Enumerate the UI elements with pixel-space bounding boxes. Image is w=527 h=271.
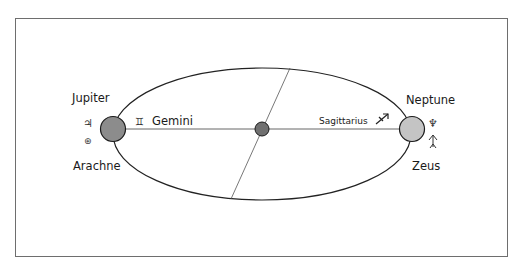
neptune-label: Neptune <box>406 93 455 107</box>
gemini-symbol-icon: ♊ <box>135 116 144 127</box>
jupiter-symbol-icon: ♃ <box>83 117 93 130</box>
center-body-circle <box>255 122 269 136</box>
gemini-label: Gemini <box>152 114 193 128</box>
left-body-circle <box>101 117 126 142</box>
zeus-label: Zeus <box>412 159 440 173</box>
arachne-label: Arachne <box>73 159 121 173</box>
arachne-symbol-icon: ⊛ <box>84 136 92 146</box>
neptune-symbol-icon: ♆ <box>428 117 438 130</box>
right-body-circle <box>400 117 425 142</box>
sagittarius-label: Sagittarius <box>319 116 368 126</box>
jupiter-label: Jupiter <box>71 91 110 105</box>
orbit-diagram: Jupiter Arachne ♃ ⊛ Neptune Zeus ♆ ♊ Gem… <box>0 0 527 271</box>
